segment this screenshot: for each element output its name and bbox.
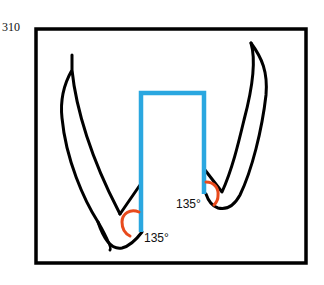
left-angle-label: 135° <box>144 231 169 245</box>
left-tooth-base <box>98 222 142 248</box>
right-angle-arc-icon <box>206 182 218 205</box>
diagram-canvas: 135° 135° <box>0 0 324 285</box>
preparation-outline <box>141 93 204 232</box>
left-tooth-outline <box>61 55 120 250</box>
right-angle-label: 135° <box>176 197 201 211</box>
frame-border <box>36 29 306 263</box>
left-angle-arc-icon <box>122 211 139 236</box>
right-tooth-inner <box>205 43 253 192</box>
